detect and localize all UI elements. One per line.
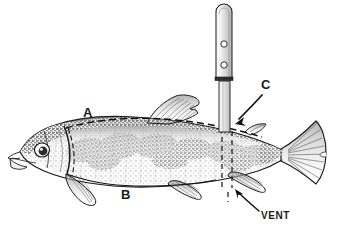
caudal-fin	[259, 121, 326, 184]
anal-fin	[228, 172, 265, 192]
knife	[215, 4, 233, 132]
knife-bolster	[215, 77, 233, 81]
label-c: C	[261, 78, 270, 91]
dorsal-fin	[147, 95, 199, 124]
fish-eye	[35, 143, 50, 157]
upper-jaw	[8, 152, 20, 159]
label-vent: VENT	[261, 211, 290, 221]
arrow-vent	[235, 189, 259, 211]
arrow-c	[235, 95, 262, 126]
knife-rivet-lower	[221, 62, 227, 68]
adipose-fin	[245, 124, 266, 135]
knife-blade	[219, 81, 230, 132]
fish-illustration	[0, 0, 355, 239]
knife-rivet-upper	[221, 41, 227, 47]
label-a: A	[83, 106, 92, 119]
fish-dissection-figure: A B C VENT	[0, 0, 355, 239]
label-b: B	[121, 188, 130, 201]
